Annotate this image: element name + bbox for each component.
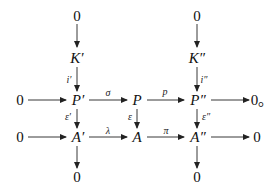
node-a-prime: A′	[72, 130, 84, 145]
node-row2-right-zero: 0	[253, 130, 261, 145]
node-top-left-zero: 0	[73, 9, 81, 24]
label-p: p	[163, 87, 168, 97]
label-epsilon-double-prime: ε″	[202, 112, 210, 122]
node-row2-left-zero: 0	[16, 130, 24, 145]
node-row1-left-zero: 0	[16, 93, 24, 108]
label-i-double-prime: i″	[201, 75, 208, 85]
label-lambda: λ	[106, 126, 110, 136]
node-k-double-prime: K″	[189, 51, 205, 66]
commutative-diagram: 0 0 K′ K″ 0 P′ P P″ 0。 0 A′ A A″ 0 0 0 i…	[0, 0, 279, 193]
node-top-right-zero: 0	[193, 9, 201, 24]
node-a: A	[132, 130, 141, 145]
node-k-prime: K′	[70, 51, 83, 66]
node-p-prime: P′	[72, 93, 84, 108]
node-bottom-right-zero: 0	[193, 170, 201, 185]
label-sigma: σ	[106, 88, 111, 98]
label-epsilon: ε	[128, 112, 132, 122]
label-epsilon-prime: ε′	[65, 112, 71, 122]
node-p: P	[132, 93, 141, 108]
node-p-double-prime: P″	[190, 93, 205, 108]
label-pi: π	[163, 126, 168, 136]
node-a-double-prime: A″	[190, 130, 205, 145]
label-i-prime: i′	[67, 75, 72, 85]
node-bottom-left-zero: 0	[73, 170, 81, 185]
node-row1-right-zero: 0。	[251, 93, 274, 108]
